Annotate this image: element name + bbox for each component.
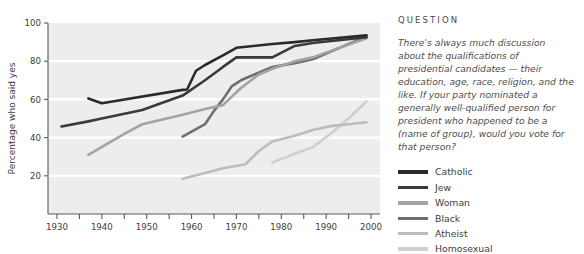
legend-item-catholic[interactable]: Catholic [398,164,582,179]
legend-item-woman[interactable]: Woman [398,195,582,210]
x-axis-tick-label: 1990 [315,222,337,232]
legend-swatch-icon [398,186,428,189]
legend-item-jew[interactable]: Jew [398,180,582,195]
chart-figure: 2040608010019301940195019601970198019902… [0,0,392,254]
legend-swatch-icon [398,201,428,204]
legend-label: Black [435,214,460,223]
legend-item-atheist[interactable]: Atheist [398,226,582,241]
y-axis-tick-label: 80 [30,56,41,66]
legend-label: Catholic [435,167,473,176]
legend-swatch-icon [398,232,428,235]
y-axis-tick-label: 20 [30,171,41,181]
question-panel: QUESTION There's always much discussion … [398,16,582,254]
y-axis-tick-label: 100 [25,18,41,28]
legend-item-homosexual[interactable]: Homosexual [398,241,582,254]
question-heading: QUESTION [398,16,582,25]
legend-label: Homosexual [435,244,493,253]
y-axis-tick-label: 60 [30,95,41,105]
legend-swatch-icon [398,170,428,173]
x-axis-tick-label: 1950 [136,222,158,232]
legend-label: Jew [435,183,451,192]
x-axis-tick-label: 1960 [181,222,203,232]
x-axis-tick-label: 1980 [270,222,292,232]
legend-swatch-icon [398,217,428,220]
chart-legend: CatholicJewWomanBlackAtheistHomosexual [398,164,582,254]
x-axis-tick-label: 2000 [360,222,382,232]
x-axis-tick-label: 1970 [225,222,247,232]
legend-label: Atheist [435,229,468,238]
line-chart: 2040608010019301940195019601970198019902… [0,0,392,254]
legend-swatch-icon [398,247,428,250]
y-axis-tick-label: 40 [30,133,41,143]
legend-label: Woman [435,198,470,207]
x-axis-tick-label: 1940 [91,222,113,232]
y-axis-title: Percentage who said yes [7,62,17,174]
legend-item-black[interactable]: Black [398,211,582,226]
question-text: There's always much discussion about the… [398,36,574,154]
chart-page: 2040608010019301940195019601970198019902… [0,0,584,254]
x-axis-tick-label: 1930 [46,222,68,232]
